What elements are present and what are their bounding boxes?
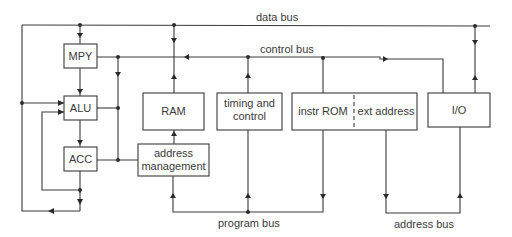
arrow-down-icon bbox=[171, 38, 177, 43]
arrow-up-icon bbox=[457, 193, 463, 198]
arrow-left-icon bbox=[48, 208, 54, 214]
arrow-right-icon bbox=[383, 56, 388, 62]
block-ram: RAM bbox=[143, 93, 204, 130]
instr-rom-label: instr ROM bbox=[298, 105, 348, 117]
acc-label: ACC bbox=[69, 153, 92, 165]
arrow-up-icon bbox=[472, 75, 478, 80]
block-alu: ALU bbox=[64, 96, 97, 120]
arrow-up-icon bbox=[171, 131, 177, 136]
arrow-right-icon bbox=[58, 100, 64, 106]
arrow-up-icon bbox=[245, 193, 251, 198]
arrow-down-icon bbox=[77, 140, 83, 145]
block-timing-control: timing and control bbox=[217, 93, 282, 130]
mpy-label: MPY bbox=[69, 50, 94, 62]
io-label: I/O bbox=[452, 104, 467, 116]
junction-dot bbox=[246, 210, 250, 214]
arrow-down-icon bbox=[472, 40, 478, 45]
block-instr-rom-ext-address: instr ROM ext address bbox=[292, 93, 417, 130]
arrow-right-icon bbox=[58, 109, 64, 115]
ext-address-label: ext address bbox=[358, 105, 415, 117]
arrow-down-icon bbox=[77, 33, 83, 38]
processor-architecture-diagram: data bus control bus bbox=[0, 0, 512, 237]
control-bus: control bus bbox=[97, 43, 443, 93]
arrow-left-icon bbox=[184, 54, 189, 60]
address-bus: address bus bbox=[383, 127, 463, 230]
timing-label-line1: timing and bbox=[224, 97, 275, 109]
block-address-management: address management bbox=[138, 144, 209, 176]
arrow-up-icon bbox=[245, 73, 251, 78]
timing-label-line2: control bbox=[233, 110, 266, 122]
data-bus-label: data bus bbox=[256, 11, 299, 23]
addr-mgmt-label-line1: address bbox=[154, 147, 194, 159]
arrow-down-icon bbox=[77, 199, 83, 205]
alu-label: ALU bbox=[70, 102, 91, 114]
ram-label: RAM bbox=[161, 105, 185, 117]
addr-mgmt-label-line2: management bbox=[141, 160, 205, 172]
arrow-down-icon bbox=[115, 72, 121, 77]
arrow-up-icon bbox=[171, 74, 177, 79]
block-io: I/O bbox=[428, 93, 490, 127]
block-acc: ACC bbox=[64, 147, 97, 171]
arrow-up-icon bbox=[170, 193, 176, 198]
address-bus-label: address bus bbox=[394, 218, 454, 230]
arrow-down-icon bbox=[383, 194, 389, 199]
block-mpy: MPY bbox=[64, 44, 97, 68]
arrow-down-icon bbox=[320, 194, 326, 199]
arrow-down-icon bbox=[77, 89, 83, 94]
control-bus-label: control bus bbox=[260, 43, 314, 55]
program-bus-label: program bus bbox=[218, 217, 280, 229]
